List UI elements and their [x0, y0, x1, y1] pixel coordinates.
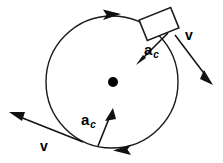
- label-centripetal-acceleration-top: ac: [144, 42, 159, 60]
- path-arrow-bottom-icon: [113, 145, 131, 156]
- path-arrow-top-icon: [103, 10, 121, 21]
- label-velocity-top-right: v: [185, 28, 193, 42]
- vector-centripetal-acceleration-bottom: [98, 108, 116, 146]
- moving-object-box: [139, 7, 179, 40]
- label-centripetal-acceleration-bottom: ac: [81, 112, 96, 130]
- label-ac-top-subscript: c: [152, 49, 159, 60]
- diagram-canvas: [0, 0, 223, 163]
- label-velocity-bottom-left: v: [40, 139, 48, 153]
- vector-velocity-top-right: [175, 35, 213, 85]
- circular-motion-diagram: ac ac v v: [0, 0, 223, 163]
- center-dot: [108, 77, 118, 87]
- label-ac-bottom-subscript: c: [89, 119, 96, 130]
